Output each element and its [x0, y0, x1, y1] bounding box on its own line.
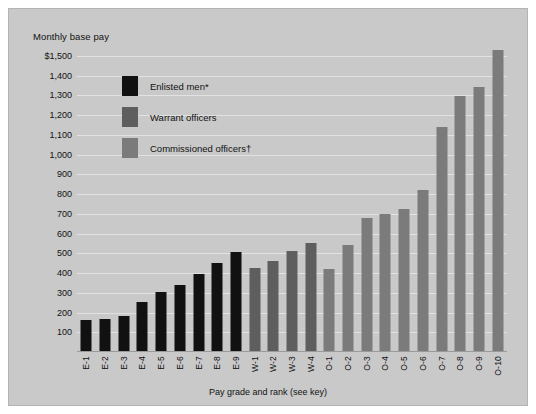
x-axis-tick-label: O-1 — [324, 356, 334, 371]
x-axis-tick-label: E-5 — [156, 356, 166, 370]
bar — [305, 243, 316, 352]
bar-group: E-1 — [77, 56, 96, 352]
y-axis-tick-label: 300 — [57, 288, 72, 298]
bar — [361, 218, 372, 352]
bar-group: O-7 — [432, 56, 451, 352]
bar-group: O-5 — [395, 56, 414, 352]
bar-group: O-1 — [320, 56, 339, 352]
bar — [436, 127, 447, 352]
bar-group: O-2 — [339, 56, 358, 352]
y-axis-tick-label: 1,200 — [49, 110, 72, 120]
bar — [455, 96, 466, 352]
bar — [193, 274, 204, 352]
bar — [492, 50, 503, 352]
bar-group: O-8 — [451, 56, 470, 352]
bar — [268, 261, 279, 352]
y-axis-tick-label: 200 — [57, 308, 72, 318]
y-axis-tick-label: 900 — [57, 169, 72, 179]
x-axis-tick-label: E-7 — [194, 356, 204, 370]
bar — [230, 252, 241, 352]
x-axis-tick-label: W-3 — [287, 356, 297, 372]
y-axis-tick-label: 1,400 — [49, 71, 72, 81]
x-axis-tick-label: W-4 — [306, 356, 316, 372]
x-axis-tick-label: O-2 — [343, 356, 353, 371]
x-axis-title: Pay grade and rank (see key) — [9, 387, 527, 397]
bar — [212, 263, 223, 352]
y-axis-tick-label: 600 — [57, 229, 72, 239]
bar-group: W-2 — [264, 56, 283, 352]
bar — [473, 87, 484, 352]
bar-group: O-9 — [470, 56, 489, 352]
bar-group: O-10 — [488, 56, 507, 352]
y-axis-tick-label: 1,100 — [49, 130, 72, 140]
bar-group: W-3 — [283, 56, 302, 352]
bar-group: E-2 — [96, 56, 115, 352]
legend-swatch — [122, 76, 138, 96]
legend-swatch — [122, 138, 138, 158]
bar — [137, 302, 148, 352]
bar — [380, 214, 391, 352]
chart-title: Monthly base pay — [33, 31, 109, 42]
bar-group: O-6 — [414, 56, 433, 352]
bar — [81, 320, 92, 352]
bar — [100, 319, 111, 352]
y-axis-tick-label: 500 — [57, 248, 72, 258]
bar — [249, 268, 260, 352]
bar-group: O-4 — [376, 56, 395, 352]
chart-figure: Monthly base pay $1,5001,4001,3001,2001,… — [8, 8, 528, 406]
x-axis-tick-label: O-10 — [493, 356, 503, 376]
x-axis-tick-label: O-9 — [474, 356, 484, 371]
bar-group: W-4 — [301, 56, 320, 352]
bar — [118, 316, 129, 353]
bar — [324, 269, 335, 352]
x-axis-tick-label: E-9 — [231, 356, 241, 370]
legend-label: Enlisted men* — [150, 81, 209, 92]
y-axis-tick-label: 100 — [57, 327, 72, 337]
y-axis-tick-label: 800 — [57, 189, 72, 199]
x-axis-tick-label: E-1 — [81, 356, 91, 370]
x-axis-tick-label: O-8 — [455, 356, 465, 371]
x-axis-tick-label: E-8 — [212, 356, 222, 370]
y-axis-tick-label: 700 — [57, 209, 72, 219]
x-axis-tick-label: O-4 — [380, 356, 390, 371]
legend-label: Warrant officers — [150, 112, 217, 123]
legend-item: Warrant officers — [122, 106, 251, 128]
bar — [156, 292, 167, 352]
x-axis-tick-label: O-5 — [399, 356, 409, 371]
x-axis-tick-label: W-1 — [250, 356, 260, 372]
legend-item: Enlisted men* — [122, 75, 251, 97]
y-axis-tick-label: 1,300 — [49, 90, 72, 100]
legend-swatch — [122, 107, 138, 127]
y-axis-tick-label: 400 — [57, 268, 72, 278]
x-axis-line — [77, 351, 507, 352]
y-axis-tick-label: $1,500 — [44, 51, 72, 61]
x-axis-tick-label: O-6 — [418, 356, 428, 371]
x-axis-tick-label: W-2 — [268, 356, 278, 372]
bar — [417, 190, 428, 352]
bar — [286, 251, 297, 352]
bar-group: O-3 — [357, 56, 376, 352]
chart-legend: Enlisted men*Warrant officersCommissione… — [122, 75, 251, 168]
x-axis-tick-label: O-7 — [437, 356, 447, 371]
legend-item: Commissioned officers† — [122, 137, 251, 159]
bar — [174, 285, 185, 352]
x-axis-tick-label: E-4 — [137, 356, 147, 370]
x-axis-tick-label: E-6 — [175, 356, 185, 370]
bar — [343, 245, 354, 352]
x-axis-tick-label: O-3 — [362, 356, 372, 371]
y-axis-tick-label: 1,000 — [49, 150, 72, 160]
bar — [399, 209, 410, 352]
legend-label: Commissioned officers† — [150, 143, 251, 154]
x-axis-tick-label: E-3 — [119, 356, 129, 370]
x-axis-tick-label: E-2 — [100, 356, 110, 370]
